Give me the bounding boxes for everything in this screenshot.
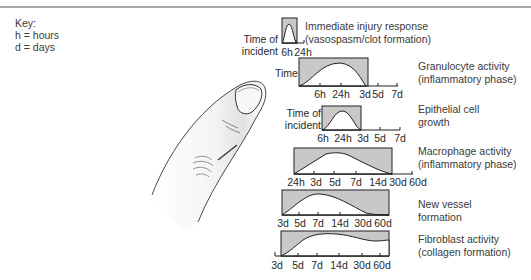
label-line: (inflammatory phase) bbox=[418, 73, 517, 86]
tick-label: 7d bbox=[350, 176, 362, 188]
tick-label: 7d bbox=[312, 217, 324, 229]
label-line: New vessel bbox=[418, 198, 472, 211]
tick-label: 14d bbox=[330, 259, 348, 271]
tick-label: 60d bbox=[374, 217, 392, 229]
label-line: Granulocyte activity bbox=[418, 60, 517, 73]
tick-label: 24h bbox=[287, 176, 305, 188]
tick-label: 14d bbox=[369, 176, 387, 188]
tick-label: 30d bbox=[353, 259, 371, 271]
chart-epithelial bbox=[322, 106, 400, 130]
time-of-incident-line2: incident bbox=[242, 45, 278, 57]
label-line: (inflammatory phase) bbox=[418, 158, 517, 171]
label-new-vessel: New vessel formation bbox=[418, 198, 472, 223]
chart-macrophage bbox=[294, 148, 413, 174]
time-of-incident-line2: incident bbox=[285, 119, 321, 131]
label-line: formation bbox=[418, 211, 472, 224]
chart-new-vessel bbox=[282, 190, 389, 215]
label-line: (vasospasm/clot formation) bbox=[305, 33, 431, 46]
tick-label: 5d bbox=[292, 259, 304, 271]
tick-label: 60d bbox=[409, 176, 427, 188]
time-axis-label: Time bbox=[275, 67, 298, 79]
label-macrophage: Macrophage activity (inflammatory phase) bbox=[418, 145, 517, 170]
label-line: Fibroblast activity bbox=[418, 233, 511, 246]
label-granulocyte: Granulocyte activity (inflammatory phase… bbox=[418, 60, 517, 85]
tick-label: 30d bbox=[354, 217, 372, 229]
tick-label: 5d bbox=[294, 217, 306, 229]
time-of-incident-line1: Time of bbox=[242, 33, 278, 45]
label-line: Immediate injury response bbox=[305, 20, 431, 33]
tick-label: 3d bbox=[359, 88, 371, 100]
tick-label: 6h bbox=[314, 88, 326, 100]
chart-granulocyte bbox=[299, 58, 398, 86]
tick-label: 5d bbox=[374, 132, 386, 144]
tick-label: 24h bbox=[332, 88, 350, 100]
tick-label: 3d bbox=[310, 176, 322, 188]
tick-label: 3d bbox=[357, 132, 369, 144]
tick-label: 7d bbox=[394, 132, 406, 144]
tick-label: 5d bbox=[372, 88, 384, 100]
label-line: growth bbox=[418, 116, 479, 129]
tick-label: 3d bbox=[271, 259, 283, 271]
label-line: Macrophage activity bbox=[418, 145, 517, 158]
tick-label: 5d bbox=[329, 176, 341, 188]
time-of-incident-label-1: Time of incident bbox=[242, 33, 278, 57]
label-fibroblast: Fibroblast activity (collagen formation) bbox=[418, 233, 511, 258]
tick-label: 24h bbox=[334, 132, 352, 144]
time-of-incident-label-2: Time of incident bbox=[285, 107, 321, 131]
label-immediate-injury: Immediate injury response (vasospasm/clo… bbox=[305, 20, 431, 45]
chart-fibroblast bbox=[275, 231, 389, 256]
tick-label: 24h bbox=[294, 46, 312, 58]
tick-label: 7d bbox=[311, 259, 323, 271]
tick-label: 3d bbox=[277, 217, 289, 229]
time-of-incident-line1: Time of bbox=[285, 107, 321, 119]
label-line: (collagen formation) bbox=[418, 246, 511, 259]
tick-label: 60d bbox=[373, 259, 391, 271]
tick-label: 30d bbox=[389, 176, 407, 188]
chart-immediate-injury bbox=[282, 18, 304, 43]
label-line: Epithelial cell bbox=[418, 103, 479, 116]
label-epithelial: Epithelial cell growth bbox=[418, 103, 479, 128]
tick-label: 6h bbox=[317, 132, 329, 144]
tick-label: 6h bbox=[281, 46, 293, 58]
tick-label: 14d bbox=[331, 217, 349, 229]
tick-label: 7d bbox=[391, 88, 403, 100]
